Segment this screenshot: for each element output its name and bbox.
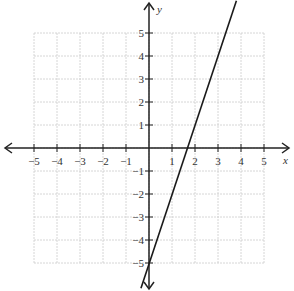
y-tick-label: −4 [132,234,144,246]
y-tick-label: −2 [132,188,144,200]
x-tick-label: 1 [169,155,175,167]
graph-line [141,1,236,289]
y-tick-label: 2 [139,96,145,108]
x-tick-label: −2 [97,155,109,167]
x-tick-label: −4 [51,155,63,167]
y-tick-label: −1 [132,165,144,177]
x-tick-label: −3 [74,155,86,167]
y-tick-label: 4 [139,50,145,62]
y-tick-label: −3 [132,211,144,223]
chart-svg: −5−4−3−2−11234554321−1−2−3−4−5 [0,0,294,291]
x-tick-label: −1 [120,155,132,167]
y-tick-label: 3 [139,73,145,85]
x-tick-label: 2 [192,155,198,167]
x-tick-label: 3 [215,155,221,167]
y-tick-label: −5 [132,257,144,269]
x-tick-label: 5 [261,155,267,167]
coordinate-plane: −5−4−3−2−11234554321−1−2−3−4−5 x y [0,0,294,291]
x-tick-label: 4 [238,155,244,167]
x-tick-label: −5 [28,155,40,167]
x-axis-label: x [283,154,288,166]
y-tick-label: 5 [139,27,145,39]
y-tick-label: 1 [139,119,145,131]
y-axis-label: y [157,3,162,15]
